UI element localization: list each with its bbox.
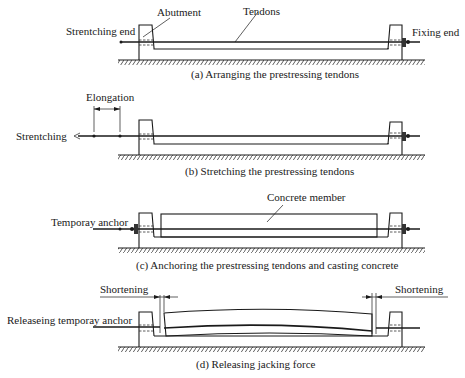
ground-d [118, 347, 425, 352]
label-elongation: Elongation [86, 91, 135, 103]
caption-d: (d) Releasing jacking force [196, 358, 316, 371]
right-abutment-d [388, 312, 402, 347]
panel-d: Shortening Shortening Releaseing tempora… [7, 283, 448, 371]
fixing-anchor-c-icon [402, 224, 410, 234]
pretensioning-process-diagram: Strentching end Abutment Tendons Fixing … [0, 0, 465, 378]
caption-c: (c) Anchoring the prestressing tendons a… [136, 259, 399, 272]
label-shortening-right: Shortening [395, 283, 444, 295]
label-abutment: Abutment [157, 6, 201, 18]
left-abutment-c [139, 213, 154, 248]
concrete-member [161, 214, 377, 237]
left-abutment-b [139, 120, 154, 155]
panel-a: Strentching end Abutment Tendons Fixing … [66, 5, 460, 81]
elongation-dimension [94, 106, 120, 132]
ground-b [118, 155, 425, 160]
panel-c: Temporay anchor Concrete member (c) Anch… [51, 191, 425, 272]
ground-c [118, 248, 425, 253]
left-abutment-d [139, 312, 154, 347]
label-temporary-anchor: Temporay anchor [51, 216, 128, 228]
casting-bed-b [154, 143, 388, 144]
right-abutment-c [388, 213, 402, 248]
label-shortening-left: Shortening [100, 283, 149, 295]
label-fixing-end: Fixing end [412, 26, 460, 38]
panel-b: Elongation Strentching (b) Stretching th… [16, 91, 425, 178]
fixing-anchor-b-icon [402, 132, 410, 141]
label-strentching-end: Strentching end [66, 25, 136, 37]
temporary-anchor-icon [130, 224, 138, 234]
label-releasing-temporary-anchor: Releaseing temporay anchor [7, 314, 133, 326]
right-abutment-b [388, 122, 402, 155]
label-stretching: Strentching [16, 130, 67, 142]
label-tendons: Tendons [243, 5, 280, 17]
caption-a: (a) Arranging the prestressing tendons [191, 68, 359, 81]
casting-bed-a [154, 48, 388, 49]
tendon-d-inner [164, 325, 372, 331]
label-concrete-member: Concrete member [267, 191, 346, 203]
ground-a [118, 60, 425, 65]
cambered-concrete-member [164, 309, 372, 336]
fixing-anchor-icon [402, 38, 410, 47]
caption-b: (b) Stretching the prestressing tendons [185, 165, 354, 178]
